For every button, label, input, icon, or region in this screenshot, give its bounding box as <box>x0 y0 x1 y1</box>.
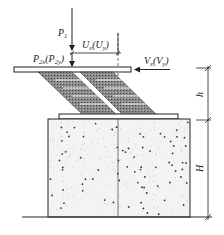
concrete-speck <box>154 175 155 176</box>
concrete-speck <box>122 150 124 152</box>
concrete-speck <box>61 153 63 155</box>
concrete-speck <box>137 155 138 156</box>
concrete-speck <box>174 130 175 131</box>
concrete-speck <box>184 128 185 129</box>
concrete-speck <box>125 184 126 185</box>
concrete-speck <box>184 137 186 139</box>
concrete-speck <box>51 195 53 197</box>
label-v: Vx(Vy) <box>144 55 169 67</box>
concrete-speck <box>97 142 98 143</box>
concrete-speck <box>61 136 62 137</box>
concrete-speck <box>114 162 115 163</box>
concrete-speck <box>66 144 67 145</box>
concrete-speck <box>153 194 154 195</box>
concrete-speck <box>186 180 187 181</box>
concrete-speck <box>164 137 165 138</box>
concrete-speck <box>137 182 139 184</box>
concrete-speck <box>128 138 129 139</box>
concrete-speck <box>63 202 65 204</box>
concrete-speck <box>51 192 52 193</box>
concrete-speck <box>186 165 187 166</box>
top-plate <box>14 67 131 72</box>
concrete-speck <box>113 211 114 212</box>
concrete-speck <box>68 136 70 138</box>
concrete-speck <box>67 157 68 158</box>
concrete-speck <box>65 151 67 153</box>
concrete-speck <box>148 181 149 182</box>
concrete-speck <box>126 182 127 183</box>
concrete-speck <box>51 160 52 161</box>
concrete-speck <box>83 162 84 163</box>
concrete-speck <box>174 173 175 174</box>
label-p2: P2x(P2y) <box>32 53 65 65</box>
concrete-speck <box>83 132 84 133</box>
concrete-speck <box>150 130 151 131</box>
concrete-speck <box>120 159 121 160</box>
concrete-speck <box>142 154 143 155</box>
concrete-speck <box>152 170 153 171</box>
concrete-speck <box>92 178 94 180</box>
concrete-speck <box>154 140 155 141</box>
concrete-speck <box>146 192 148 194</box>
concrete-speck <box>107 167 108 168</box>
concrete-speck <box>140 166 142 168</box>
concrete-speck <box>93 198 94 199</box>
concrete-speck <box>85 178 87 180</box>
concrete-speck <box>103 138 104 139</box>
concrete-speck <box>181 121 182 122</box>
concrete-speck <box>134 171 136 173</box>
concrete-speck <box>104 146 105 147</box>
concrete-speck <box>69 148 70 149</box>
concrete-speck <box>187 121 189 123</box>
concrete-speck <box>128 148 130 150</box>
concrete-speck <box>76 160 77 161</box>
concrete-speck <box>106 150 107 151</box>
concrete-speck <box>82 190 83 191</box>
concrete-speck <box>119 196 120 197</box>
concrete-speck <box>129 181 130 182</box>
concrete-speck <box>106 185 107 186</box>
concrete-speck <box>140 169 142 171</box>
concrete-speck <box>135 144 136 145</box>
concrete-speck <box>133 156 135 158</box>
concrete-speck <box>96 173 97 174</box>
concrete-speck <box>90 187 91 188</box>
concrete-speck <box>154 130 155 131</box>
concrete-speck <box>74 184 75 185</box>
concrete-speck <box>62 169 64 171</box>
concrete-speck <box>60 203 61 204</box>
concrete-speck <box>95 123 97 125</box>
concrete-speck <box>140 128 141 129</box>
concrete-speck <box>110 156 111 157</box>
label-u: Ux(Uy) <box>82 39 110 51</box>
concrete-speck <box>116 126 118 128</box>
concrete-speck <box>63 176 64 177</box>
concrete-speck <box>73 195 74 196</box>
concrete-speck <box>114 209 115 210</box>
concrete-speck <box>147 173 148 174</box>
concrete-speck <box>82 183 84 185</box>
concrete-speck <box>67 151 68 152</box>
concrete-speck <box>172 153 174 155</box>
concrete-speck <box>182 169 184 171</box>
concrete-speck <box>110 128 111 129</box>
concrete-speck <box>66 131 68 133</box>
concrete-speck <box>97 169 99 171</box>
concrete-speck <box>90 179 91 180</box>
concrete-speck <box>92 143 93 144</box>
concrete-speck <box>164 199 166 201</box>
concrete-speck <box>111 203 112 204</box>
bearing-diagram: P1 Ux(Uy) P2x(P2y) Vx(Vy) h H <box>0 0 224 235</box>
concrete-speck <box>176 129 178 131</box>
label-h-small: h <box>194 92 205 97</box>
concrete-speck <box>172 210 173 211</box>
concrete-speck <box>107 205 108 206</box>
concrete-speck <box>114 148 115 149</box>
concrete-speck <box>57 155 58 156</box>
concrete-speck <box>99 128 100 129</box>
concrete-speck <box>155 154 156 155</box>
concrete-speck <box>73 121 74 122</box>
concrete-speck <box>120 128 121 129</box>
concrete-speck <box>50 166 51 167</box>
concrete-speck <box>133 158 134 159</box>
